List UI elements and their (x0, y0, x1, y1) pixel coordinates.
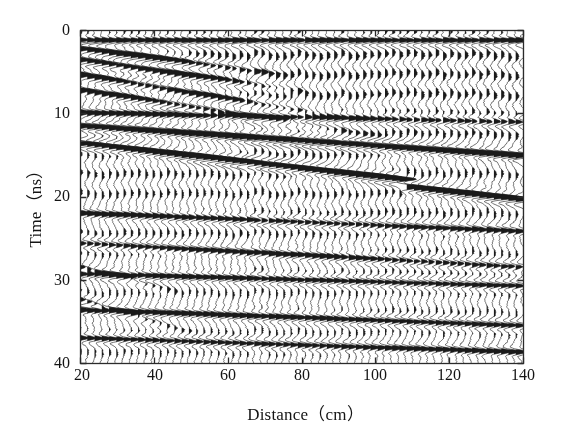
x-tick-label-60: 60 (198, 366, 258, 384)
y-tick-label-20: 20 (24, 187, 70, 205)
y-tick-label-40: 40 (24, 354, 70, 372)
x-tick-label-120: 120 (419, 366, 479, 384)
y-tick-label-30: 30 (24, 271, 70, 289)
y-tick-label-0: 0 (24, 21, 70, 39)
radargram-figure: Distance（cm） Time（ns） 20 40 60 80 100 12… (0, 0, 567, 442)
x-tick-label-100: 100 (345, 366, 405, 384)
x-axis-label: Distance（cm） (0, 400, 567, 425)
y-tick-label-10: 10 (24, 104, 70, 122)
x-tick-label-80: 80 (272, 366, 332, 384)
x-tick-label-140: 140 (493, 366, 553, 384)
x-tick-label-40: 40 (125, 366, 185, 384)
